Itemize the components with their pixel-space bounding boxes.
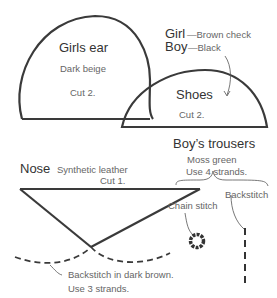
backstitch-pointer xyxy=(231,195,244,229)
shoes-pointer-arrowhead xyxy=(224,91,230,96)
nose-backstitch-right xyxy=(91,247,170,262)
boys-trousers-title: Boy’s trousers xyxy=(173,136,256,151)
nose-left-edge xyxy=(20,189,91,247)
boys-trousers-color: Moss green xyxy=(187,154,237,165)
nose-backstitch-note: Backstitch in dark brown. xyxy=(68,269,174,280)
nose-title: Nose xyxy=(20,161,50,176)
chain-stitch-pointer xyxy=(185,213,193,235)
shoes-boy-material: —Black xyxy=(188,42,221,53)
nose-material: Synthetic leather xyxy=(57,164,128,175)
nose-strands: Use 3 strands. xyxy=(68,283,129,294)
chain-stitch-rosette xyxy=(191,235,204,248)
backstitch-pointer-line xyxy=(50,265,62,275)
shoes-cut: Cut 2. xyxy=(179,109,204,120)
nose-backstitch-left xyxy=(15,247,91,263)
girls-ear-material: Dark beige xyxy=(60,63,106,74)
pattern-diagram: Girls ear Dark beige Cut 2. Girl —Brown … xyxy=(0,0,277,298)
boys-trousers-strands: Use 4 strands. xyxy=(186,166,247,177)
girls-ear-title: Girls ear xyxy=(59,40,109,55)
chain-stitch-label: Chain stitch xyxy=(168,200,218,211)
shoes-boy-label: Boy xyxy=(165,39,188,54)
shoes-girl-material: —Brown check xyxy=(187,29,251,40)
backstitch-label: Backstitch xyxy=(225,189,268,200)
shoes-title: Shoes xyxy=(176,87,213,102)
nose-right-edge xyxy=(91,189,200,247)
girls-ear-cut: Cut 2. xyxy=(70,87,95,98)
nose-cut: Cut 1. xyxy=(100,175,125,186)
